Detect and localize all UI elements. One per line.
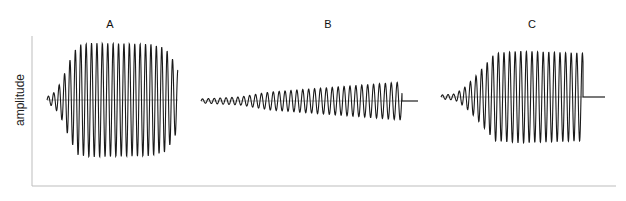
chart-canvas [0,0,626,201]
panel-label-b: B [324,18,331,30]
waveforms [47,43,605,157]
panel-label-a: A [106,18,113,30]
y-axis-label: amplitude [13,74,27,126]
panel-label-c: C [528,18,536,30]
